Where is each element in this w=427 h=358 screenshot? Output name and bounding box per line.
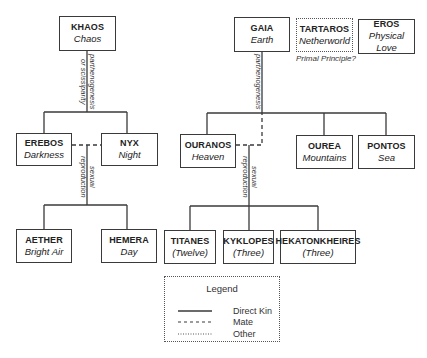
legend-label-direct-kin: Direct Kin: [233, 306, 272, 316]
node-hemera: HEMERA Day: [101, 229, 157, 263]
node-erebos: EREBOS Darkness: [16, 133, 72, 166]
node-subtitle: Sea: [378, 152, 395, 164]
node-hekatonkheires: HEKATONKHEIRES (Three): [280, 230, 356, 264]
node-subtitle: Chaos: [74, 33, 101, 45]
node-name: KYKLOPES: [223, 236, 273, 247]
node-name: GAIA: [251, 23, 274, 34]
ouranos-gaia-edge-label: sexual reproduction: [241, 156, 258, 198]
legend-label-other: Other: [233, 329, 256, 339]
node-ourea: OUREA Mountains: [296, 135, 353, 169]
node-subtitle: Netherworld: [299, 35, 350, 47]
node-subtitle: Heaven: [192, 151, 225, 163]
node-name: EREBOS: [25, 138, 64, 149]
erebos-nyx-edge-label: sexual reproduction: [79, 156, 96, 198]
node-name: TARTAROS: [300, 24, 349, 35]
edge-label-line: parthenogenesis: [88, 54, 97, 109]
node-name: TITANES: [171, 236, 210, 247]
node-eros: EROS Physical Love: [358, 19, 415, 54]
khaos-edge-label: parthenogenesis or scissiparity: [79, 54, 96, 109]
node-tartaros: TARTAROS Netherworld: [296, 18, 353, 52]
legend-title: Legend: [165, 283, 279, 294]
edge-label-line: sexual: [88, 156, 97, 198]
node-subtitle: Bright Air: [25, 246, 64, 258]
node-subtitle: Physical Love: [359, 30, 414, 54]
node-khaos: KHAOS Chaos: [59, 16, 116, 51]
ouranos-gaia-mate-line: [236, 113, 262, 145]
node-subtitle: Mountains: [303, 152, 347, 164]
gaia-edge-label: parthenogenesis: [254, 54, 263, 109]
node-subtitle: (Three): [233, 247, 264, 259]
node-aether: AETHER Bright Air: [16, 229, 72, 263]
node-subtitle: Earth: [251, 34, 274, 46]
node-titanes: TITANES (Twelve): [164, 230, 216, 264]
node-subtitle: Day: [121, 246, 138, 258]
node-name: PONTOS: [367, 141, 405, 152]
node-name: AETHER: [25, 235, 63, 246]
node-name: NYX: [120, 138, 139, 149]
legend-label-mate: Mate: [233, 317, 253, 327]
node-ouranos: OURANOS Heaven: [180, 134, 236, 168]
node-name: HEKATONKHEIRES: [275, 236, 360, 247]
node-subtitle: Night: [118, 149, 140, 161]
node-name: OURANOS: [185, 140, 232, 151]
edge-label-line: or scissiparity: [79, 54, 88, 109]
legend: Legend Direct Kin Mate Other: [164, 276, 280, 342]
node-subtitle: (Twelve): [172, 247, 208, 259]
node-name: HEMERA: [109, 235, 149, 246]
edge-label-line: parthenogenesis: [254, 54, 263, 109]
tartaros-note: Primal Principle?: [296, 54, 356, 63]
node-name: EROS: [374, 19, 400, 30]
node-subtitle: (Three): [302, 247, 333, 259]
node-nyx: NYX Night: [101, 133, 158, 166]
edge-label-line: sexual: [250, 156, 259, 198]
node-gaia: GAIA Earth: [234, 17, 290, 52]
edge-label-line: reproduction: [241, 156, 250, 198]
node-subtitle: Darkness: [24, 149, 64, 161]
node-name: OUREA: [308, 141, 341, 152]
node-name: KHAOS: [71, 22, 104, 33]
node-pontos: PONTOS Sea: [358, 135, 415, 169]
node-kyklopes: KYKLOPES (Three): [223, 230, 274, 264]
edge-label-line: reproduction: [79, 156, 88, 198]
